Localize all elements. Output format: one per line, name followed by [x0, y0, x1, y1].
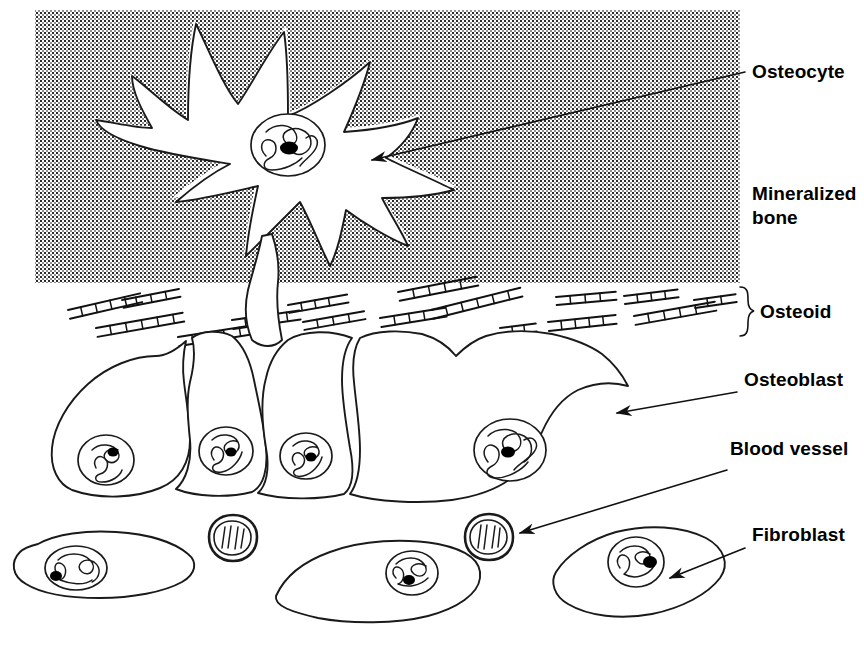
fibroblast-cell	[553, 527, 725, 617]
fibroblast-nucleus	[386, 551, 438, 595]
label-osteocyte: Osteocyte	[752, 61, 845, 82]
collagen-fibril	[303, 311, 365, 330]
label-osteoblast: Osteoblast	[744, 369, 844, 390]
blood-vessel-leader	[520, 470, 727, 533]
osteoblast-cell	[350, 331, 628, 502]
osteoblast-nucleus	[474, 419, 546, 481]
osteoblast-nucleus	[280, 433, 332, 479]
labels-group: Osteocyte Mineralized bone Osteoid Osteo…	[730, 61, 857, 545]
osteoblast-leader	[617, 392, 737, 413]
label-blood-vessel: Blood vessel	[730, 438, 848, 459]
osteoblast-nucleus	[78, 435, 134, 485]
label-fibroblast: Fibroblast	[752, 524, 845, 545]
blood-vessel-cell	[465, 514, 513, 560]
osteocyte-nucleus	[251, 114, 325, 176]
collagen-fibril	[556, 292, 616, 305]
fibroblast-cell	[14, 532, 195, 599]
osteoid-brace	[740, 287, 754, 336]
collagen-fibril	[634, 302, 716, 325]
label-mineralized-bone-line2: bone	[752, 207, 798, 228]
fibroblast-nucleus	[45, 546, 107, 590]
osteoblast-cell	[258, 332, 352, 498]
bone-histology-figure: Osteocyte Mineralized bone Osteoid Osteo…	[0, 0, 864, 653]
blood-vessel-cell	[209, 515, 257, 561]
collagen-fibril	[548, 315, 617, 331]
osteoblast-nucleus	[199, 427, 253, 475]
collagen-fibril	[96, 313, 184, 337]
osteoblast-cell	[176, 332, 266, 496]
figure-canvas: Osteocyte Mineralized bone Osteoid Osteo…	[0, 0, 864, 653]
mineralized-bone-region	[35, 10, 740, 283]
label-mineralized-bone-line1: Mineralized	[752, 183, 857, 204]
osteoblast-cell	[52, 341, 190, 497]
fibroblast-nucleus	[608, 537, 664, 587]
fibroblast-cell	[276, 541, 480, 623]
label-osteoid: Osteoid	[760, 301, 831, 322]
collagen-fibril	[624, 289, 679, 304]
